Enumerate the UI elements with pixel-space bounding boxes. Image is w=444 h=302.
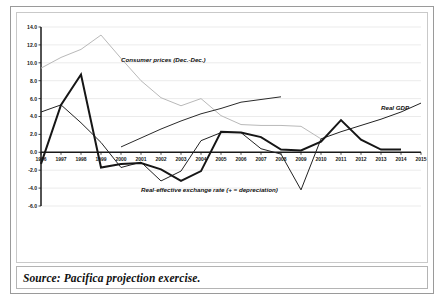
y-axis-tick-label: 12.0 [27, 42, 37, 48]
x-axis-tick-label: 2014 [395, 156, 406, 162]
y-axis-tick-label: -6.0 [28, 203, 37, 209]
series-annotation-label: Real GDP [381, 104, 410, 111]
x-axis-tick-label: 2002 [155, 156, 166, 162]
x-axis-tick-label: 1997 [55, 156, 66, 162]
x-axis-tick-label: 2012 [355, 156, 366, 162]
x-axis-tick-label: 2011 [336, 156, 347, 162]
line-chart-svg: 14.012.010.08.06.04.02.00.0-2.0-4.0-6.0 … [17, 13, 427, 262]
x-axis-tick-label: 1999 [95, 156, 106, 162]
x-axis-tick-label: 2005 [215, 156, 226, 162]
data-series-lines [41, 35, 421, 190]
x-axis-tick-label: 2003 [175, 156, 186, 162]
x-axis-tick-label: 2010 [315, 156, 326, 162]
series-line [121, 97, 281, 147]
y-axis-tick-label: 10.0 [27, 60, 37, 66]
series-line [41, 74, 401, 181]
x-axis-tick-label: 2015 [415, 156, 426, 162]
x-axis-tick-label: 2001 [135, 156, 146, 162]
source-note-text: Source: Pacifica projection exercise. [17, 272, 200, 284]
x-axis-tick-label: 1998 [75, 156, 86, 162]
y-axis-tick-label: 8.0 [30, 78, 37, 84]
y-axis-tick-label: 4.0 [30, 113, 37, 119]
x-axis-tick-label: 2013 [375, 156, 386, 162]
y-axis-tick-label: 6.0 [30, 96, 37, 102]
x-axis-tick-labels: 1996199719981999200020012002200320042005… [35, 156, 426, 162]
source-note-bar: Source: Pacifica projection exercise. [16, 266, 428, 289]
y-axis-tick-label: -4.0 [28, 185, 37, 191]
chart-plot-area: 14.012.010.08.06.04.02.00.0-2.0-4.0-6.0 … [16, 12, 428, 263]
series-annotation-label: Consumer prices (Dec.-Dec.) [121, 56, 206, 63]
y-axis-tick-label: 2.0 [30, 131, 37, 137]
figure-container: 14.012.010.08.06.04.02.00.0-2.0-4.0-6.0 … [10, 6, 434, 294]
x-axis-tick-label: 2007 [255, 156, 266, 162]
y-axis-tick-label: 0.0 [30, 149, 37, 155]
y-axis-tick-label: -2.0 [28, 167, 37, 173]
x-axis-tick-label: 2009 [295, 156, 306, 162]
y-axis-tick-labels: 14.012.010.08.06.04.02.00.0-2.0-4.0-6.0 [27, 24, 37, 209]
series-line [41, 103, 421, 190]
series-annotation-label: Real-effective exchange rate (+ = deprec… [141, 186, 278, 193]
x-axis-tick-label: 2006 [235, 156, 246, 162]
x-axis-tick-label: 2000 [115, 156, 126, 162]
y-axis-tick-label: 14.0 [27, 24, 37, 30]
gridlines [41, 27, 421, 206]
